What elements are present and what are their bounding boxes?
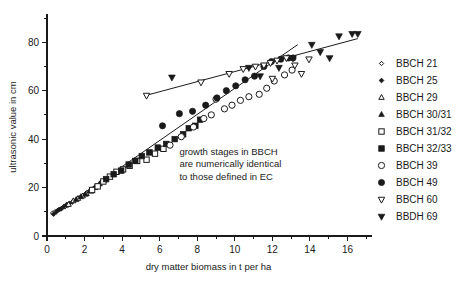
data-point-marker [203,102,209,108]
data-points-group [50,31,361,216]
annotation-line: growth stages in BBCH [179,146,277,157]
data-point-marker [226,71,232,77]
data-point-marker [111,171,117,177]
data-point-marker [298,71,304,77]
legend-label: BBCH 49 [396,177,438,188]
y-tick-label: 80 [28,37,40,48]
data-point-marker [198,80,204,86]
x-tick-label: 14 [304,244,316,255]
legend-marker-square-filled [379,146,385,152]
chart-figure: 0246810121416020406080dry matter biomass… [0,0,460,283]
data-point-marker [118,168,124,174]
data-point-marker [89,187,94,192]
data-point-marker [152,151,157,156]
legend-marker-triangle-up-open [379,95,384,100]
legend-item-bbch-21[interactable]: BBCH 21 [379,58,438,69]
data-point-marker [139,153,145,159]
axes-group: 0246810121416020406080dry matter biomass… [7,14,372,272]
legend-marker-diamond-open [379,61,383,65]
data-point-marker [237,97,243,103]
legend-label: BBCH 32/33 [396,143,452,154]
data-point-marker [95,184,100,189]
legend-label: BBCH 29 [396,92,438,103]
data-point-marker [221,106,227,112]
x-tick-label: 4 [119,244,125,255]
data-point-marker [159,123,165,129]
data-point-marker [223,88,229,94]
legend-label: BBCH 39 [396,160,438,171]
data-point-marker [103,176,109,182]
legend-marker-triangle-down-filled [378,214,385,220]
data-point-marker [256,91,262,97]
x-tick-label: 10 [229,244,241,255]
data-point-marker [281,72,287,78]
data-point-marker [190,124,196,130]
legend-marker-circle-open [378,162,384,168]
data-point-marker [155,145,161,151]
legend-item-bbch-30-31[interactable]: BBCH 30/31 [379,109,452,120]
legend-item-bbch-39[interactable]: BBCH 39 [378,160,438,171]
annotation-group: growth stages in BBCHare numerically ide… [179,146,281,182]
data-point-marker [143,93,149,99]
data-point-marker [167,142,173,148]
x-tick-label: 12 [267,244,279,255]
data-point-marker [147,150,153,156]
data-point-marker [126,162,132,168]
data-point-marker [176,111,182,117]
scatter-plot: 0246810121416020406080dry matter biomass… [0,0,460,283]
data-point-marker [276,65,283,71]
legend-group: BBCH 21BBCH 25BBCH 29BBCH 30/31BBCH 31/3… [378,58,452,222]
x-tick-label: 8 [194,244,200,255]
y-tick-label: 0 [33,231,39,242]
data-point-marker [349,31,356,37]
legend-marker-circle-filled [378,179,384,185]
y-tick-label: 20 [28,182,40,193]
data-point-marker [208,112,214,118]
data-point-marker [178,134,184,140]
data-point-marker [201,115,207,121]
y-tick-label: 60 [28,85,40,96]
y-axis-title: ultrasonic value in cm [7,81,18,172]
data-point-marker [317,50,324,56]
legend-marker-square-open [379,129,384,134]
legend-label: BBCH 25 [396,75,438,86]
annotation-line: are numerically identical [179,158,281,169]
data-point-marker [308,42,315,48]
legend-marker-diamond-filled [379,78,384,83]
legend-label: BBCH 60 [396,194,438,205]
legend-item-bbch-31-32[interactable]: BBCH 31/32 [379,126,452,137]
data-point-marker [354,31,361,37]
x-axis-title: dry matter biomass in t per ha [146,261,272,272]
legend-label: BBCH 21 [396,58,438,69]
legend-item-bbch-25[interactable]: BBCH 25 [379,75,438,86]
data-point-marker [233,83,239,89]
y-tick-label: 40 [28,134,40,145]
legend-item-bbdh-69[interactable]: BBDH 69 [378,211,438,222]
legend-item-bbch-32-33[interactable]: BBCH 32/33 [379,143,452,154]
data-point-marker [264,85,270,91]
data-point-marker [306,57,312,63]
x-tick-label: 2 [82,244,88,255]
data-point-marker [336,34,343,40]
legend-label: BBCH 30/31 [396,109,452,120]
data-point-marker [326,56,333,62]
data-point-marker [189,108,195,114]
legend-item-bbch-60[interactable]: BBCH 60 [378,194,438,205]
data-point-marker [229,102,235,108]
x-tick-label: 16 [342,244,354,255]
x-tick-label: 0 [44,244,50,255]
legend-item-bbch-49[interactable]: BBCH 49 [378,177,438,188]
legend-label: BBCH 31/32 [396,126,452,137]
data-point-marker [246,94,252,100]
upper-regression-line [146,39,358,96]
annotation-line: to those defined in EC [179,171,273,182]
data-point-marker [242,77,248,83]
legend-label: BBDH 69 [396,211,438,222]
data-point-marker [172,136,178,142]
data-point-marker [214,95,220,101]
data-point-marker [132,158,138,164]
legend-marker-triangle-up-filled [379,111,385,116]
legend-item-bbch-29[interactable]: BBCH 29 [379,92,438,103]
legend-marker-triangle-down-open [378,197,384,203]
x-tick-label: 6 [157,244,163,255]
